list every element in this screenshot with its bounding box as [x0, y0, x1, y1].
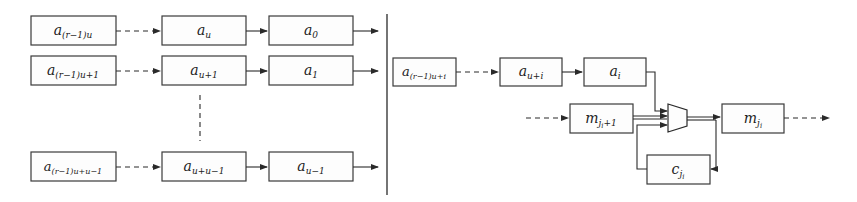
row-2: a(r−1)u+1 au+1 a1 — [31, 56, 378, 85]
ai-to-mux-wire — [646, 72, 667, 111]
row-1: a(r−1)u au a0 — [31, 16, 378, 45]
multiplexer — [668, 104, 687, 132]
left-panel: a(r−1)u au a0 a(r−1)u+1 au+1 — [31, 16, 378, 181]
feedback-to-c-wire — [711, 120, 716, 169]
right-panel: a(r−1)u+i au+i ai mji+1 mji — [393, 58, 829, 184]
row-3: a(r−1)u+u−1 au+u−1 au−1 — [31, 152, 378, 181]
diagram-canvas: a(r−1)u au a0 a(r−1)u+1 au+1 — [0, 0, 857, 202]
